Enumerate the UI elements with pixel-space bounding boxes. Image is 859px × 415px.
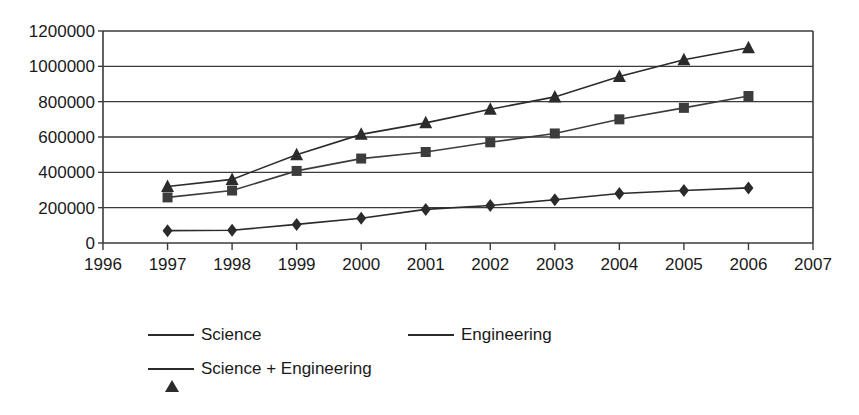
x-axis-tick-label: 2004	[600, 255, 638, 274]
x-axis-tick-label: 1997	[149, 255, 187, 274]
x-axis-tick-labels: 1996199719981999200020012002200320042005…	[84, 255, 832, 274]
x-axis-tick-label: 2000	[342, 255, 380, 274]
data-point-diamond-icon	[292, 218, 302, 231]
legend-label-engineering: Engineering	[461, 325, 552, 345]
data-point-diamond-icon	[743, 181, 753, 194]
chart-container: 120000010000008000006000004000002000000 …	[0, 0, 859, 415]
series-science	[163, 181, 754, 237]
y-axis-tick-labels: 120000010000008000006000004000002000000	[29, 22, 95, 253]
data-point-triangle-icon	[226, 172, 239, 185]
data-point-square-icon	[614, 114, 624, 124]
data-point-triangle-icon	[742, 41, 755, 54]
data-point-square-icon	[163, 192, 173, 202]
legend-item-engineering[interactable]: Engineering	[408, 325, 552, 345]
y-axis-tick-label: 800000	[38, 93, 95, 112]
legend-row-1: Science Engineering	[0, 325, 859, 359]
legend-marker-diamond-icon	[148, 326, 194, 344]
data-point-square-icon	[550, 128, 560, 138]
legend-marker-triangle-icon	[148, 360, 194, 378]
y-axis-tick-label: 400000	[38, 163, 95, 182]
legend-row-2: Science + Engineering	[0, 359, 859, 393]
legend-label-science-plus-engineering: Science + Engineering	[201, 359, 372, 379]
data-point-square-icon	[292, 166, 302, 176]
legend-item-science-plus-engineering[interactable]: Science + Engineering	[148, 359, 372, 379]
y-axis-tick-label: 1200000	[29, 22, 95, 41]
y-axis-tick-label: 600000	[38, 128, 95, 147]
legend-marker-square-icon	[408, 326, 454, 344]
data-point-square-icon	[421, 147, 431, 157]
x-axis-tick-label: 2003	[536, 255, 574, 274]
legend-item-science[interactable]: Science	[148, 325, 261, 345]
chart-legend: Science Engineering Science + Engineerin…	[0, 325, 859, 415]
data-point-diamond-icon	[163, 224, 173, 237]
series-line	[168, 96, 749, 197]
series-science-engineering	[161, 41, 755, 192]
data-point-square-icon	[743, 91, 753, 101]
y-axis-tick-label: 1000000	[29, 57, 95, 76]
data-point-diamond-icon	[485, 199, 495, 212]
series-line	[168, 48, 749, 187]
x-axis-tick-label: 2001	[407, 255, 445, 274]
x-axis-tick-label: 1998	[213, 255, 251, 274]
data-point-diamond-icon	[550, 193, 560, 206]
series-line	[168, 188, 749, 231]
x-axis-tick-label: 2006	[730, 255, 768, 274]
data-point-square-icon	[679, 103, 689, 113]
data-point-diamond-icon	[421, 203, 431, 216]
y-axis-tick-label: 0	[86, 234, 95, 253]
x-axis-tick-label: 2005	[665, 255, 703, 274]
x-axis-tick-label: 1996	[84, 255, 122, 274]
data-point-diamond-icon	[227, 224, 237, 237]
x-axis	[103, 31, 813, 250]
series-engineering	[163, 91, 754, 202]
data-point-square-icon	[227, 186, 237, 196]
data-point-diamond-icon	[356, 212, 366, 225]
x-axis-tick-label: 1999	[278, 255, 316, 274]
y-axis-tick-label: 200000	[38, 199, 95, 218]
legend-label-science: Science	[201, 325, 261, 345]
data-point-square-icon	[485, 137, 495, 147]
x-axis-tick-label: 2007	[794, 255, 832, 274]
data-point-square-icon	[356, 154, 366, 164]
data-point-diamond-icon	[679, 184, 689, 197]
data-point-diamond-icon	[614, 187, 624, 200]
gridlines	[98, 31, 813, 243]
x-axis-tick-label: 2002	[471, 255, 509, 274]
